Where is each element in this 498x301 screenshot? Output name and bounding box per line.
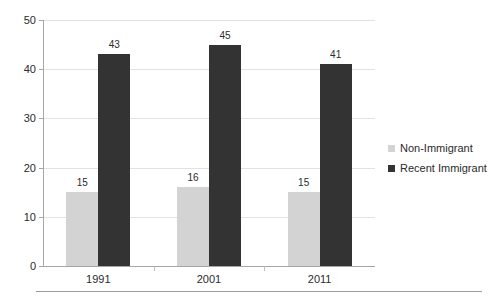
bar-value-label: 41 <box>320 50 352 60</box>
bar-value-label: 15 <box>66 178 98 188</box>
x-axis-line <box>43 266 375 267</box>
x-axis-tick-mark <box>264 266 265 271</box>
chart-legend: Non-Immigrant Recent Immigrant <box>388 140 494 180</box>
bar-value-label: 15 <box>288 178 320 188</box>
x-axis-category-label: 2001 <box>154 274 265 285</box>
bar-value-label: 16 <box>177 173 209 183</box>
bar-1991-non-immigrant[interactable] <box>66 192 98 266</box>
y-axis-tick-label: 30 <box>6 113 36 124</box>
bar-chart-figure: 154316451541 01020304050 199120012011 No… <box>0 0 498 301</box>
legend-swatch-icon-non-immigrant <box>388 145 395 152</box>
bar-1991-recent-immigrant[interactable] <box>98 54 130 266</box>
y-axis-tick-label: 40 <box>6 64 36 75</box>
y-axis-tick-label: 50 <box>6 15 36 26</box>
footer-divider <box>36 291 482 292</box>
y-axis-tick-label: 20 <box>6 162 36 173</box>
bar-2001-non-immigrant[interactable] <box>177 187 209 266</box>
bar-value-label: 45 <box>209 31 241 41</box>
x-axis-category-label: 2011 <box>264 274 375 285</box>
legend-item-non-immigrant[interactable]: Non-Immigrant <box>388 140 494 157</box>
legend-label-non-immigrant: Non-Immigrant <box>400 143 473 154</box>
y-axis-tick-labels: 01020304050 <box>0 20 36 266</box>
bar-2011-recent-immigrant[interactable] <box>320 64 352 266</box>
x-axis-tick-mark <box>154 266 155 271</box>
y-axis-line <box>43 20 44 267</box>
bar-2011-non-immigrant[interactable] <box>288 192 320 266</box>
bar-value-label: 43 <box>98 40 130 50</box>
gridline <box>43 20 375 21</box>
legend-swatch-icon-recent-immigrant <box>388 165 395 172</box>
legend-label-recent-immigrant: Recent Immigrant <box>400 163 487 174</box>
x-axis-category-label: 1991 <box>43 274 154 285</box>
y-axis-tick-label: 0 <box>6 261 36 272</box>
y-axis-tick-label: 10 <box>6 211 36 222</box>
legend-item-recent-immigrant[interactable]: Recent Immigrant <box>388 160 494 177</box>
bar-2001-recent-immigrant[interactable] <box>209 45 241 266</box>
plot-area: 154316451541 <box>43 20 375 266</box>
